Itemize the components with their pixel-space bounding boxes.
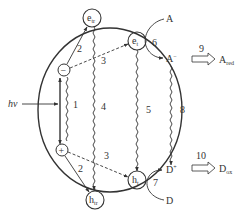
acceptor-product-arrow: 9 Ared [192,43,234,66]
svg-text:htr: htr [89,194,98,206]
svg-text:10: 10 [196,150,206,161]
svg-text:D: D [166,195,173,206]
wavy-recombination-1 [66,77,68,141]
wavy-recombination-4 [93,27,95,191]
svg-text:hν: hν [8,98,18,109]
svg-text:4: 4 [101,101,106,112]
electron-charge: − [58,64,70,76]
svg-text:3: 3 [101,55,106,66]
hole-charge: + [56,144,68,156]
svg-text:etr: etr [87,12,95,24]
hole-trapping-arrow [65,156,89,192]
svg-text:A: A [166,13,174,24]
svg-text:9: 9 [199,43,204,54]
svg-text:8: 8 [180,104,185,115]
svg-text:Dox: Dox [219,163,232,175]
svg-text:3: 3 [104,150,109,161]
donor-product-arrow: 10 Dox [192,150,232,175]
svg-text:D+: D+ [166,164,177,175]
hole-trap-surface: htr [86,191,104,209]
svg-text:2: 2 [77,43,82,54]
svg-text:+: + [59,145,65,156]
acceptor-reduction: A 6 A− [145,13,177,64]
light-excitation: hν [8,98,58,109]
svg-text:−: − [61,65,67,76]
svg-text:2: 2 [78,163,83,174]
svg-text:1: 1 [73,99,78,110]
electron-trap-surface: etr [83,9,101,27]
wavy-recombination-5 [136,50,138,170]
donor-oxidation: D+ 7 D [147,164,177,206]
photocatalysis-diagram: etr htr et ht − + hν 1 2 2 3 3 [0,0,240,216]
svg-text:ht: ht [132,174,139,186]
svg-text:et: et [132,35,138,47]
svg-text:A−: A− [166,53,177,64]
svg-text:Ared: Ared [219,54,234,66]
svg-text:5: 5 [146,104,151,115]
svg-text:7: 7 [153,177,158,188]
svg-text:6: 6 [152,37,157,48]
wavy-back-reaction-8 [170,66,172,162]
